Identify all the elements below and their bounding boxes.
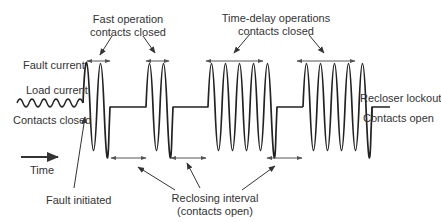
fast-operation-1-waveform [83, 62, 143, 157]
load-current-label: Load current [26, 84, 88, 97]
contacts-open-label: Contacts open [363, 112, 434, 125]
fault-initiated-pointer [74, 117, 85, 188]
contacts-closed-label: Contacts closed [13, 114, 91, 127]
time-delay-operation-1-waveform [203, 64, 303, 158]
fast-operation-label: Fast operation contacts closed [88, 13, 168, 39]
fault-initiated-label: Fault initiated [46, 194, 111, 207]
time-delay-operation-2-waveform [303, 64, 390, 158]
fast-operation-line1: Fast operation [88, 13, 168, 26]
reclosing-pointer-2 [187, 163, 200, 188]
time-delay-label: Time-delay operations contacts closed [218, 12, 334, 38]
reclosing-pointer-3 [242, 166, 275, 190]
time-delay-line2: contacts closed [218, 25, 334, 38]
reclosing-interval-line1: Reclosing interval [165, 192, 265, 205]
time-label: Time [30, 164, 54, 177]
fast-operation-2-waveform [143, 64, 203, 158]
reclosing-interval-line2: (contacts open) [165, 205, 265, 218]
reclosing-pointer-1 [138, 167, 175, 190]
reclosing-interval-label: Reclosing interval (contacts open) [165, 192, 265, 218]
fault-current-label: Fault current [23, 59, 85, 72]
recloser-lockout-label: Recloser lockout [360, 92, 441, 105]
time-delay-line1: Time-delay operations [218, 12, 334, 25]
load-current-waveform [17, 99, 83, 107]
fast-operation-line2: contacts closed [88, 26, 168, 39]
